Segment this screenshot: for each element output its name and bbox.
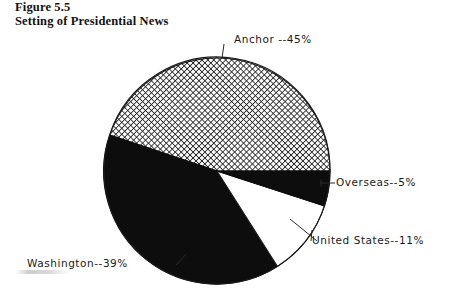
pie-chart: Anchor --45% Overseas--5% United States-… xyxy=(0,0,469,296)
leader-line-anchor xyxy=(222,44,224,59)
pie-label-anchor: Anchor --45% xyxy=(234,33,312,45)
pie-label-overseas: Overseas--5% xyxy=(336,176,416,188)
pie-label-united-states: United States--11% xyxy=(312,234,424,246)
pie-label-washington: Washington--39% xyxy=(27,257,128,269)
figure-page: Figure 5.5 Setting of Presidential News xyxy=(0,0,469,296)
